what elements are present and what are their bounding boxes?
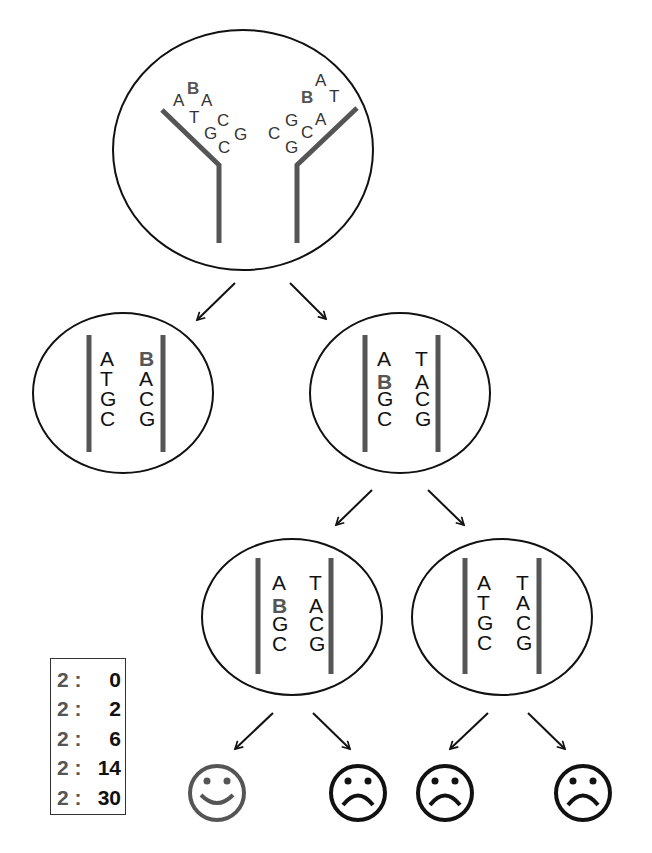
base: G [204, 124, 217, 143]
legend-row: 2 : 0 [57, 665, 121, 695]
legend-left-value: 2 : [57, 668, 87, 692]
base: C [268, 124, 280, 143]
sad-face-icon [556, 766, 610, 820]
legend-right-value: 6 [87, 727, 121, 751]
row3-left-cell: A B G C T A C G [202, 539, 382, 695]
dna-replication-diagram: A B A T C G G C A B T G A C C G A T G C … [0, 0, 652, 853]
base: G [234, 125, 247, 144]
base: G [285, 138, 298, 157]
legend-row: 2 : 2 [57, 695, 121, 725]
base: A [173, 91, 185, 110]
legend-left-value: 2 : [57, 727, 87, 751]
cell-outline [310, 313, 490, 473]
base: T [309, 571, 322, 594]
legend-row: 2 : 6 [57, 724, 121, 754]
base: A [315, 110, 327, 129]
base: T [329, 87, 339, 106]
legend-right-value: 30 [87, 786, 121, 810]
legend-left-value: 2 : [57, 786, 87, 810]
base-highlight: B [301, 88, 313, 107]
arrow-icon [313, 713, 350, 749]
base: G [309, 632, 325, 655]
base: C [272, 632, 287, 655]
arrow-icon [336, 490, 372, 525]
base: A [377, 347, 391, 370]
sad-face-icon [418, 766, 472, 820]
arrow-icon [197, 283, 235, 320]
base: A [201, 91, 213, 110]
base: A [315, 71, 327, 90]
legend-left-value: 2 : [57, 697, 87, 721]
legend-right-value: 14 [87, 756, 121, 780]
arrow-icon [290, 283, 326, 319]
base: C [100, 407, 115, 430]
arrow-icon [235, 713, 273, 749]
arrow-icon [450, 713, 488, 749]
cell-outline [33, 313, 213, 473]
legend-row: 2 : 14 [57, 754, 121, 784]
base: A [272, 571, 286, 594]
top-cell: A B A T C G G C A B T G A C C G [113, 30, 373, 270]
legend-row: 2 : 30 [57, 783, 121, 813]
base: C [377, 407, 392, 430]
happy-face-icon [190, 766, 244, 820]
base: T [415, 347, 428, 370]
top-cell-outline [113, 30, 373, 270]
base-highlight: B [187, 79, 199, 98]
arrow-icon [428, 490, 464, 525]
legend-left-value: 2 : [57, 756, 87, 780]
cell-outline [412, 539, 592, 695]
base: C [218, 138, 230, 157]
base: G [415, 407, 431, 430]
base: T [189, 108, 199, 127]
base: G [285, 111, 298, 130]
legend-right-value: 2 [87, 697, 121, 721]
base: C [477, 631, 492, 654]
arrow-icon [528, 713, 565, 749]
base: G [516, 631, 532, 654]
base: C [301, 123, 313, 142]
legend-right-value: 0 [87, 668, 121, 692]
row3-right-cell: A T G C T A C G [412, 539, 592, 695]
base: C [217, 111, 229, 130]
cell-outline [202, 539, 382, 695]
row2-right-cell: A B G C T A C G [310, 313, 490, 473]
ratio-legend: 2 : 0 2 : 2 2 : 6 2 : 14 2 : 30 [50, 658, 126, 815]
sad-face-icon [331, 766, 385, 820]
row2-left-cell: A T G C B A C G [33, 313, 213, 473]
base: G [139, 407, 155, 430]
